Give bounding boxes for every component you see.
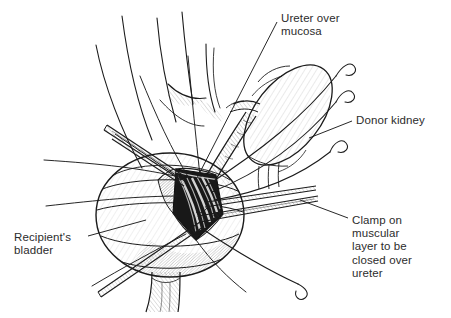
suture-needle-4[interactable] bbox=[204, 230, 307, 299]
annotation-label-recipients-bladder: Recipient'sbladder bbox=[14, 231, 71, 257]
annotation-label-clamp-on-muscular-layer: Clamp onmuscularlayer to beclosed overur… bbox=[352, 214, 412, 280]
annotation-line: mucosa bbox=[281, 25, 322, 37]
annotation-line: ureter bbox=[352, 267, 383, 279]
annotation-label-ureter-over-mucosa: Ureter overmucosa bbox=[281, 12, 340, 38]
annotation-line: layer to be bbox=[352, 240, 407, 252]
annotation-line: Donor kidney bbox=[356, 114, 425, 126]
annotation-line: muscular bbox=[352, 227, 399, 239]
annotation-line: Clamp on bbox=[352, 214, 402, 226]
annotation-line: Ureter over bbox=[281, 12, 340, 24]
surgical-illustration-figure: Ureter overmucosa Donor kidney Clamp onm… bbox=[0, 0, 451, 318]
annotation-label-donor-kidney: Donor kidney bbox=[356, 114, 425, 127]
retracted-tissue-edges bbox=[96, 12, 220, 168]
annotation-line: Recipient's bbox=[14, 231, 71, 243]
annotation-line: bladder bbox=[14, 244, 53, 256]
annotation-line: closed over bbox=[352, 254, 412, 266]
renal-vessels bbox=[226, 101, 260, 112]
leader-clamp bbox=[300, 200, 348, 218]
bladder-neck bbox=[146, 272, 180, 312]
